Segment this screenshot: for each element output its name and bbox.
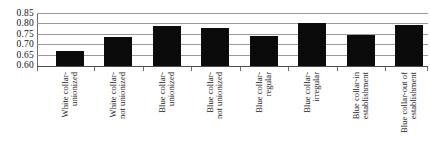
x-axis-label-line: unionized	[167, 72, 176, 162]
bar-blue-collar-irregular	[298, 23, 326, 66]
x-axis-tick	[143, 67, 144, 71]
x-axis-tick	[427, 67, 428, 71]
x-axis-tick	[288, 67, 289, 71]
bar-blue-collar-unionized	[153, 26, 181, 66]
x-axis-label-white-collar-unionized: White collar- unionized	[61, 72, 75, 162]
x-axis-tick	[385, 67, 386, 71]
x-axis-label-line: establishment	[409, 72, 418, 162]
x-axis-label-blue-collar-not-unionized: Blue collar- not unionized	[206, 72, 220, 162]
bars-layer	[37, 13, 428, 67]
x-axis-label-blue-collar-unionized: Blue collar- unionized	[158, 72, 172, 162]
plot-area	[37, 13, 428, 67]
x-axis-ticks	[37, 67, 428, 71]
y-axis-tick-label: 0.60	[17, 61, 34, 71]
x-axis-tick	[337, 67, 338, 71]
x-axis-tick	[94, 67, 95, 71]
y-axis-tick-label: 0.85	[17, 9, 34, 19]
bar-white-collar-not-unionized	[104, 37, 132, 66]
bar-blue-collar-out-of-establishment	[395, 25, 423, 66]
x-axis-tick	[191, 67, 192, 71]
bar-white-collar-unionized	[56, 51, 84, 66]
x-axis-label-line: establishment	[361, 72, 370, 162]
x-axis-label-blue-collar-out-of-establishment: Blue collar-out of establishment	[400, 72, 414, 162]
x-axis-label-line: irregular	[312, 72, 321, 162]
x-axis-label-white-collar-not-unionized: White collar- not unionized	[109, 72, 123, 162]
x-axis-label-line: not unionized	[215, 72, 224, 162]
bar-chart: 0.85 0.80 0.75 0.70 0.65 0.60	[0, 0, 430, 162]
bar-blue-collar-regular	[250, 36, 278, 66]
x-axis-tick	[37, 67, 38, 71]
y-axis-tick-label: 0.65	[17, 51, 34, 61]
x-axis-label-line: regular	[264, 72, 273, 162]
y-axis-tick-labels: 0.85 0.80 0.75 0.70 0.65 0.60	[0, 0, 36, 162]
bar-blue-collar-not-unionized	[201, 28, 229, 66]
x-axis-category-labels: White collar- unionized White collar- no…	[37, 72, 428, 162]
x-axis-label-blue-collar-irregular: Blue collar- irregular	[303, 72, 317, 162]
x-axis-label-blue-collar-in-establishment: Blue collar-in establishment	[352, 72, 366, 162]
x-axis-tick	[240, 67, 241, 71]
x-axis-label-line: not unionized	[118, 72, 127, 162]
bar-blue-collar-in-establishment	[347, 35, 375, 66]
x-axis-label-line: unionized	[70, 72, 79, 162]
y-axis-tick-label: 0.75	[17, 30, 34, 40]
x-axis-label-blue-collar-regular: Blue collar- regular	[255, 72, 269, 162]
y-axis-tick-label: 0.80	[17, 20, 34, 30]
y-axis-tick-label: 0.70	[17, 40, 34, 50]
